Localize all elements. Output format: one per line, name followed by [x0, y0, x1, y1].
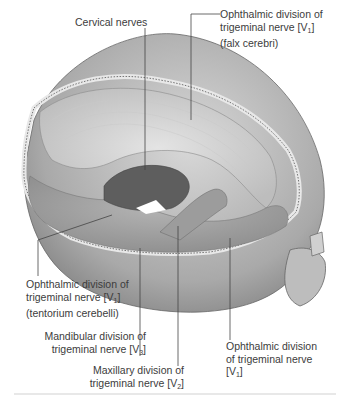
label-line: Maxillary division of [88, 364, 184, 377]
label-line: Ophthalmic division of [220, 8, 323, 21]
label-line: of trigeminal nerve [226, 353, 317, 366]
label-line: [V1] [226, 365, 317, 382]
label-line: Ophthalmic division of [26, 278, 129, 291]
label-line: Ophthalmic division [226, 340, 317, 353]
label-line: (falx cerebri) [220, 37, 323, 50]
label-ophthalmic-falx-cerebri: Ophthalmic division of trigeminal nerve … [220, 8, 323, 50]
label-ophthalmic-division: Ophthalmic division of trigeminal nerve … [226, 340, 317, 382]
label-mandibular-division: Mandibular division of trigeminal nerve … [44, 330, 146, 359]
label-line: Mandibular division of [44, 330, 146, 343]
label-line: trigeminal nerve [V2] [88, 377, 184, 394]
bottom-divider [14, 393, 336, 395]
label-line: trigeminal nerve [V1] [26, 291, 129, 308]
label-cervical-nerves: Cervical nerves [75, 16, 147, 29]
label-maxillary-division: Maxillary division of trigeminal nerve [… [88, 364, 184, 393]
label-line: (tentorium cerebelli) [26, 307, 129, 320]
label-text: Cervical nerves [75, 16, 147, 28]
label-line: trigeminal nerve [V3] [44, 343, 146, 360]
label-ophthalmic-tentorium-cerebelli: Ophthalmic division of trigeminal nerve … [26, 278, 129, 320]
label-line: trigeminal nerve [V1] [220, 21, 323, 38]
